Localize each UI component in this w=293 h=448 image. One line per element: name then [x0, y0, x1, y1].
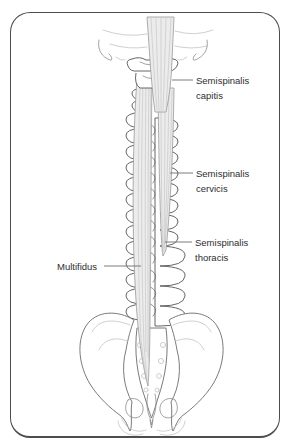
label-semispinalis-thoracis: Semispinalis thoracis	[195, 235, 261, 265]
label-multifidus: Multifidus	[57, 259, 97, 274]
label-semispinalis-cervicis: Semispinalis cervicis	[196, 166, 262, 196]
label-semispinalis-capitis: Semispinalis capitis	[196, 73, 262, 103]
figure-panel: Semispinalis capitis Semispinalis cervic…	[0, 0, 293, 448]
pelvis	[80, 313, 223, 435]
spine-illustration	[0, 0, 293, 448]
